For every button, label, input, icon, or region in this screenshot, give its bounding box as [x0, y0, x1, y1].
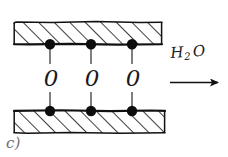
reagent-formula-h2o: H2O [170, 44, 206, 63]
formula-element-h: H [170, 43, 184, 62]
node-dot-top-3 [127, 39, 137, 49]
node-dot-bottom-3 [127, 106, 137, 116]
formula-element-o: O [190, 42, 206, 61]
node-dot-bottom-1 [45, 106, 55, 116]
bridge-oxygen-3: 0 [125, 64, 141, 92]
figure-container: 0 0 0 H2O c) [0, 0, 228, 157]
bridge-oxygen-1: 0 [43, 64, 59, 92]
node-dot-bottom-2 [86, 106, 96, 116]
node-dot-top-1 [45, 39, 55, 49]
bridge-oxygen-2: 0 [84, 64, 100, 92]
diagram-svg [0, 0, 228, 157]
node-dot-top-2 [86, 39, 96, 49]
figure-part-label: c) [6, 136, 20, 151]
bottom-plate-bottom-edge [14, 133, 165, 134]
